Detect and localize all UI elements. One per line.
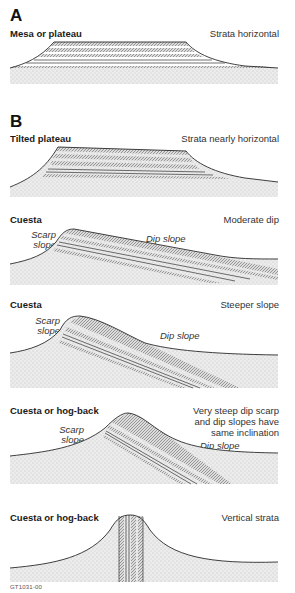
tilted-plateau-diagram <box>0 145 295 200</box>
section-a-letter: A <box>10 6 22 26</box>
panel-title-tilted-plateau: Tilted plateau <box>10 133 71 144</box>
cuesta-moderate-diagram <box>0 225 295 287</box>
panel-desc-cuesta-moderate: Moderate dip <box>224 214 279 225</box>
hogback-vertical-diagram <box>0 512 295 584</box>
cuesta-steeper-diagram <box>0 310 295 390</box>
panel-title-cuesta-moderate: Cuesta <box>10 214 42 225</box>
panel-desc-tilted-plateau: Strata nearly horizontal <box>181 133 279 144</box>
panel-title-cuesta-steeper: Cuesta <box>10 299 42 310</box>
section-b-letter: B <box>10 112 22 132</box>
hogback-steep-diagram <box>0 410 295 490</box>
figure-code: GT1031-00 <box>10 584 42 590</box>
panel-desc-cuesta-steeper: Steeper slope <box>220 299 279 310</box>
vertical-strata <box>119 515 143 582</box>
mesa-plateau-diagram <box>0 38 295 88</box>
